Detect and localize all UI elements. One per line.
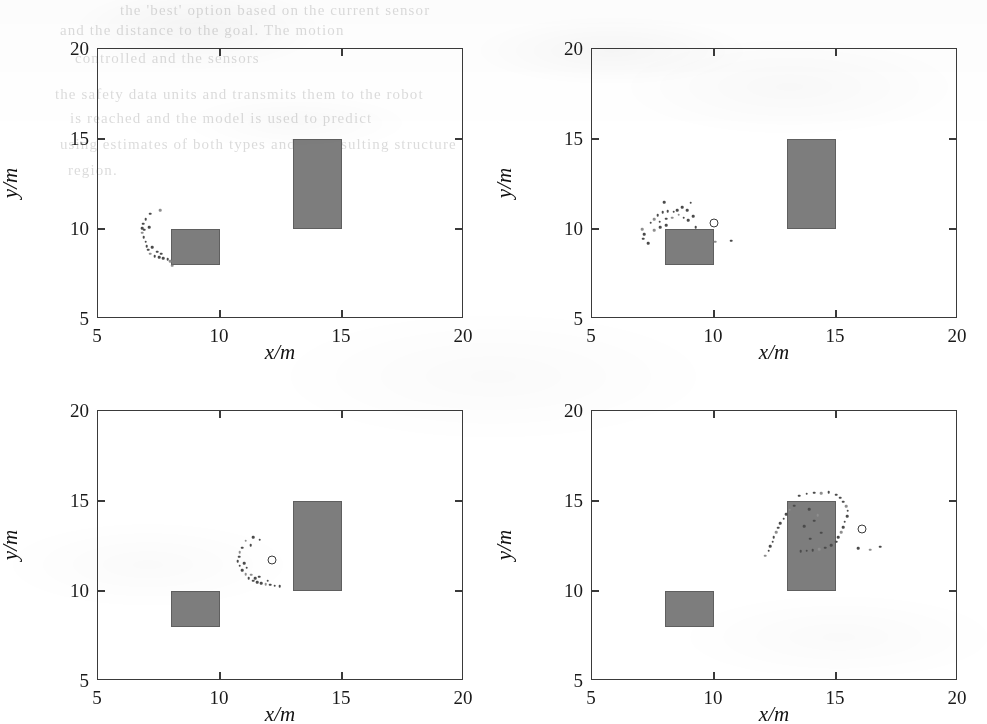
scatter-point [243,562,246,565]
scatter-point [142,222,145,225]
scatter-point [238,565,241,568]
x-tick-mark [713,310,714,317]
scatter-point [803,525,806,528]
scatter-point [769,545,772,548]
y-tick-mark-right [455,590,462,591]
scatter-point [151,246,154,249]
scatter-point [147,248,150,251]
scatter-point [686,209,689,212]
scatter-point [764,555,767,558]
y-tick-label: 10 [557,219,583,238]
scatter-point [676,209,679,212]
y-tick-mark-right [455,500,462,501]
plot-area [591,48,957,318]
scatter-point [143,236,146,239]
scatter-point [805,493,808,496]
scatter-point [820,492,823,495]
scatter-point [682,217,685,220]
goal-circle-marker [710,218,719,227]
scatter-point [247,577,250,580]
scatter-point [657,214,660,217]
scatter-point [158,256,161,259]
scatter-point [254,577,257,580]
y-tick-label: 5 [557,309,583,328]
y-axis-title: y/m [0,168,23,198]
x-tick-mark [835,310,836,317]
scatter-point [647,242,650,245]
scatter-point [260,582,263,585]
y-tick-mark [98,228,105,229]
plot-area [97,410,463,680]
scatter-point [672,211,675,214]
y-tick-label: 10 [63,219,89,238]
scatter-point [788,508,791,511]
y-tick-mark [592,500,599,501]
y-tick-label: 20 [63,401,89,420]
scatter-point [244,539,247,542]
panel-top-left: 51015205101520x/my/m [0,0,493,362]
scatter-point [641,228,644,231]
y-tick-label: 5 [557,671,583,690]
y-tick-mark [98,138,105,139]
scatter-point [250,574,253,577]
scatter-point [252,579,255,582]
scatter-point [782,517,785,520]
scatter-point [666,210,669,213]
scatter-point [238,551,241,554]
scatter-point [149,212,152,215]
scatter-point [160,253,163,256]
scatter-point [156,250,159,253]
scatter-point [820,531,823,534]
y-axis-title: y/m [0,530,23,560]
scatter-point [278,585,281,588]
scatter-point [653,218,656,221]
obstacle-rectangle [787,139,836,229]
y-axis-title: y/m [492,168,517,198]
scatter-point [246,566,249,569]
scatter-point [265,583,268,586]
y-tick-label: 15 [557,491,583,510]
scatter-point [659,221,662,224]
scatter-point [846,510,849,513]
x-tick-mark [341,310,342,317]
scatter-point [241,569,244,572]
y-tick-mark [592,138,599,139]
obstacle-rectangle [293,501,342,591]
scatter-point [643,233,646,236]
y-tick-label: 20 [63,39,89,58]
scatter-point [843,520,846,523]
scatter-point [661,211,664,214]
x-tick-mark-top [835,49,836,56]
scatter-point [812,549,815,552]
scatter-point [266,579,269,582]
scatter-point [677,213,680,216]
scatter-point [779,522,782,525]
x-tick-mark-top [219,49,220,56]
scatter-point [169,260,172,263]
y-tick-mark [592,590,599,591]
goal-circle-marker [857,524,866,533]
x-tick-mark-top [713,411,714,418]
y-tick-mark-right [949,138,956,139]
scatter-point [269,583,272,586]
scatter-point [805,549,808,552]
scatter-point [663,201,666,204]
y-tick-mark-right [949,500,956,501]
obstacle-rectangle [665,591,714,627]
scatter-point [258,575,261,578]
x-axis-title: x/m [97,702,463,724]
scatter-point [730,239,733,242]
goal-circle-marker [268,556,277,565]
scatter-point [671,217,674,220]
x-tick-mark-top [341,411,342,418]
scatter-point [809,538,812,541]
scatter-point [642,238,645,241]
panel-top-right: 51015205101520x/my/m [494,0,987,362]
plot-area [591,410,957,680]
scatter-point [768,549,771,552]
y-tick-mark-right [949,228,956,229]
scatter-point [252,536,255,539]
scatter-point [665,224,668,227]
scatter-point [846,515,849,518]
x-tick-mark [341,672,342,679]
